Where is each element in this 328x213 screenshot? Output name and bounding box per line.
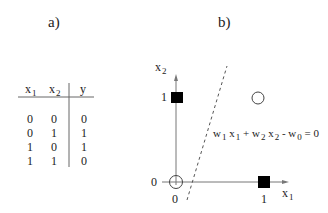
- y-tick-0: 0: [151, 175, 157, 190]
- y-axis-arrow-icon: [174, 74, 178, 81]
- figure-graphics: [0, 0, 328, 213]
- point-1-0-filled-square: [258, 176, 270, 188]
- point-0-1-filled-square: [171, 92, 183, 103]
- point-1-1-open-circle: [252, 92, 264, 104]
- y-axis-label: x2: [155, 60, 167, 75]
- x-tick-0: 0: [172, 192, 178, 207]
- decision-boundary-equation: w1 x1 + w2 x2 - w0 = 0: [213, 127, 319, 139]
- x-tick-1: 1: [261, 192, 267, 207]
- x-axis-label: x1: [282, 186, 294, 201]
- x-axis-arrow-icon: [282, 180, 289, 184]
- y-tick-1: 1: [161, 90, 167, 105]
